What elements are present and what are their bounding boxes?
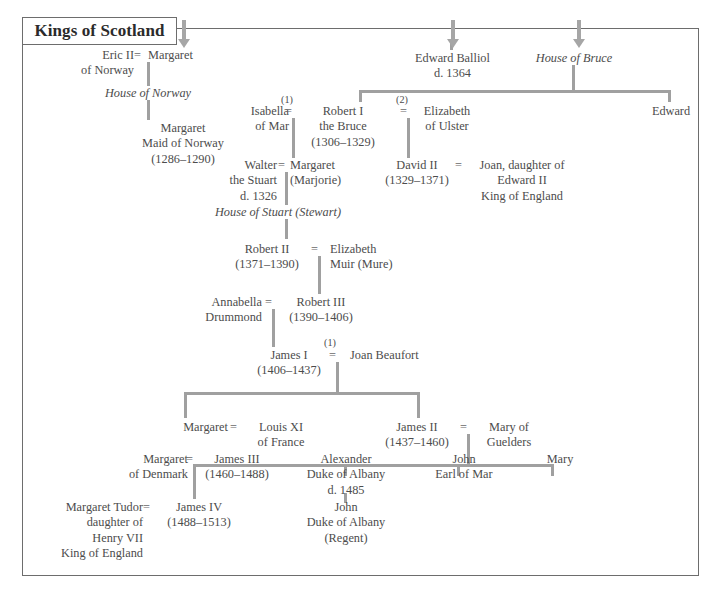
genealogy-chart: Kings of Scotland House of NorwayHouse o… bbox=[0, 0, 715, 593]
person-node-james-iii: James III(1460–1488) bbox=[196, 452, 278, 483]
vertical-connector bbox=[336, 362, 339, 392]
person-line: the Bruce bbox=[297, 119, 389, 134]
person-line: (Marjorie) bbox=[290, 173, 362, 188]
person-line: (1306–1329) bbox=[297, 135, 389, 150]
vertical-connector bbox=[417, 392, 420, 418]
person-line: the Stuart bbox=[212, 173, 277, 188]
person-line: James IV bbox=[158, 500, 240, 515]
person-line: (1488–1513) bbox=[158, 515, 240, 530]
marriage-ordinal-eq-robert-elizabeth: (2) bbox=[396, 94, 408, 105]
vertical-connector bbox=[285, 219, 288, 239]
horizontal-connector bbox=[359, 90, 669, 93]
person-node-mary-of-guelders: Mary ofGuelders bbox=[478, 420, 540, 451]
person-line: Joan, daughter of bbox=[466, 158, 578, 173]
person-line: (1460–1488) bbox=[196, 467, 278, 482]
person-line: Mary of bbox=[478, 420, 540, 435]
person-line: Earl of Mar bbox=[424, 467, 504, 482]
person-line: Mary bbox=[520, 452, 600, 467]
house-label-house-of-stuart: House of Stuart (Stewart) bbox=[190, 205, 366, 220]
marriage-symbol-eq-margarettudor-jamesiv: = bbox=[143, 500, 150, 515]
person-line: David II bbox=[378, 158, 456, 173]
person-node-james-ii: James II(1437–1460) bbox=[376, 420, 458, 451]
person-line: d. 1364 bbox=[400, 66, 505, 81]
person-line: d. 1326 bbox=[212, 189, 277, 204]
person-line: d. 1485 bbox=[290, 483, 402, 498]
house-label-house-of-bruce: House of Bruce bbox=[515, 51, 633, 66]
marriage-symbol-eq-annabella-robertiii: = bbox=[265, 295, 272, 310]
person-line: Elizabeth bbox=[412, 104, 482, 119]
person-line: Margaret Tudor bbox=[30, 500, 143, 515]
person-node-margaret-of-norway: Margaret bbox=[148, 48, 228, 63]
person-line: John bbox=[424, 452, 504, 467]
marriage-symbol-eq-robertii-elizabeth: = bbox=[311, 242, 318, 257]
person-line: Margaret bbox=[148, 48, 228, 63]
person-node-margaret-marjorie: Margaret(Marjorie) bbox=[290, 158, 362, 189]
person-line: Joan Beaufort bbox=[350, 348, 446, 363]
marriage-symbol-eq-margaret-louis: = bbox=[230, 420, 237, 435]
person-line: Margaret bbox=[118, 121, 248, 136]
person-line: Robert II bbox=[226, 242, 308, 257]
person-line: Annabella bbox=[190, 295, 262, 310]
person-node-walter-the-stuart: Walterthe Stuartd. 1326 bbox=[212, 158, 277, 204]
person-node-robert-ii: Robert II(1371–1390) bbox=[226, 242, 308, 273]
person-line: Guelders bbox=[478, 435, 540, 450]
person-node-david-ii: David II(1329–1371) bbox=[378, 158, 456, 189]
marriage-symbol-eq-eric-margaret: = bbox=[134, 48, 141, 63]
marriage-ordinal-eq-jamesi-joan: (1) bbox=[324, 337, 336, 348]
person-line: of Mar bbox=[232, 119, 289, 134]
vertical-connector bbox=[285, 172, 288, 205]
person-line: Edward bbox=[640, 104, 702, 119]
person-line: Elizabeth bbox=[330, 242, 408, 257]
person-line: Walter bbox=[212, 158, 277, 173]
person-node-james-iv: James IV(1488–1513) bbox=[158, 500, 240, 531]
marriage-symbol-eq-margaret-jamesiii: = bbox=[186, 452, 193, 467]
person-node-john-duke-of-albany: JohnDuke of Albany(Regent) bbox=[290, 500, 402, 546]
vertical-connector bbox=[318, 256, 321, 294]
person-node-edward-bruce: Edward bbox=[640, 104, 702, 119]
arrow-shaft bbox=[451, 20, 454, 40]
person-line: daughter of bbox=[30, 515, 143, 530]
person-line: (1406–1437) bbox=[248, 363, 330, 378]
person-line: Margaret bbox=[290, 158, 362, 173]
person-line: James II bbox=[376, 420, 458, 435]
person-line: Edward Balliol bbox=[400, 51, 505, 66]
person-line: Alexander bbox=[290, 452, 402, 467]
person-line: Margaret bbox=[108, 452, 188, 467]
person-line: Maid of Norway bbox=[118, 136, 248, 151]
person-line: King of England bbox=[466, 189, 578, 204]
person-node-joan-daughter-of-edward-ii: Joan, daughter ofEdward IIKing of Englan… bbox=[466, 158, 578, 204]
person-line: of Denmark bbox=[108, 467, 188, 482]
arrow-shaft bbox=[182, 20, 185, 40]
person-node-annabella-drummond: AnnabellaDrummond bbox=[190, 295, 262, 326]
vertical-connector bbox=[147, 100, 150, 120]
marriage-symbol-eq-isabella-robert: = bbox=[285, 104, 292, 119]
vertical-connector bbox=[572, 65, 575, 90]
person-line: John bbox=[290, 500, 402, 515]
marriage-symbol-eq-david-joan: = bbox=[455, 158, 462, 173]
arrow-shaft bbox=[577, 20, 580, 40]
person-node-alexander-duke-of-albany: AlexanderDuke of Albanyd. 1485 bbox=[290, 452, 402, 498]
down-arrow-icon bbox=[573, 20, 585, 48]
person-line: Drummond bbox=[190, 310, 262, 325]
person-line: Duke of Albany bbox=[290, 467, 402, 482]
person-node-margaret-of-scotland: Margaret bbox=[160, 420, 228, 435]
person-line: of Ulster bbox=[412, 119, 482, 134]
person-node-robert-i-the-bruce: Robert Ithe Bruce(1306–1329) bbox=[297, 104, 389, 150]
arrow-head bbox=[178, 39, 190, 48]
marriage-symbol-eq-jamesii-mary: = bbox=[460, 420, 467, 435]
house-label-house-of-norway: House of Norway bbox=[78, 86, 218, 101]
person-node-isabella-of-mar: Isabellaof Mar bbox=[232, 104, 289, 135]
marriage-ordinal-eq-isabella-robert: (1) bbox=[281, 94, 293, 105]
marriage-symbol-eq-robert-elizabeth: = bbox=[400, 104, 407, 119]
vertical-connector bbox=[147, 62, 150, 86]
person-line: (1329–1371) bbox=[378, 173, 456, 188]
person-line: James I bbox=[248, 348, 330, 363]
chart-title-box: Kings of Scotland bbox=[22, 17, 177, 45]
person-node-margaret-of-denmark: Margaretof Denmark bbox=[108, 452, 188, 483]
person-line: (1390–1406) bbox=[280, 310, 362, 325]
person-node-eric-ii-of-norway: Eric IIof Norway bbox=[56, 48, 134, 79]
vertical-connector bbox=[407, 118, 410, 158]
person-line: Duke of Albany bbox=[290, 515, 402, 530]
person-line: Henry VII bbox=[30, 531, 143, 546]
person-line: Eric II bbox=[56, 48, 134, 63]
